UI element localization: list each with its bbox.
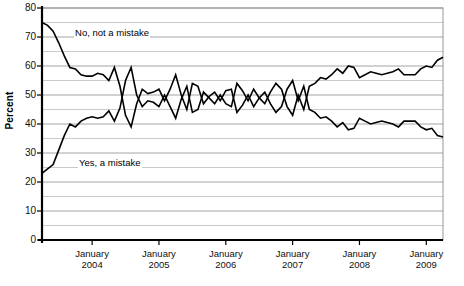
series-label: No, not a mistake [74, 27, 150, 38]
line-chart: Percent 01020304050607080 January2004Jan… [0, 0, 464, 286]
series-label: Yes, a mistake [78, 157, 141, 168]
plot-area [0, 0, 464, 286]
